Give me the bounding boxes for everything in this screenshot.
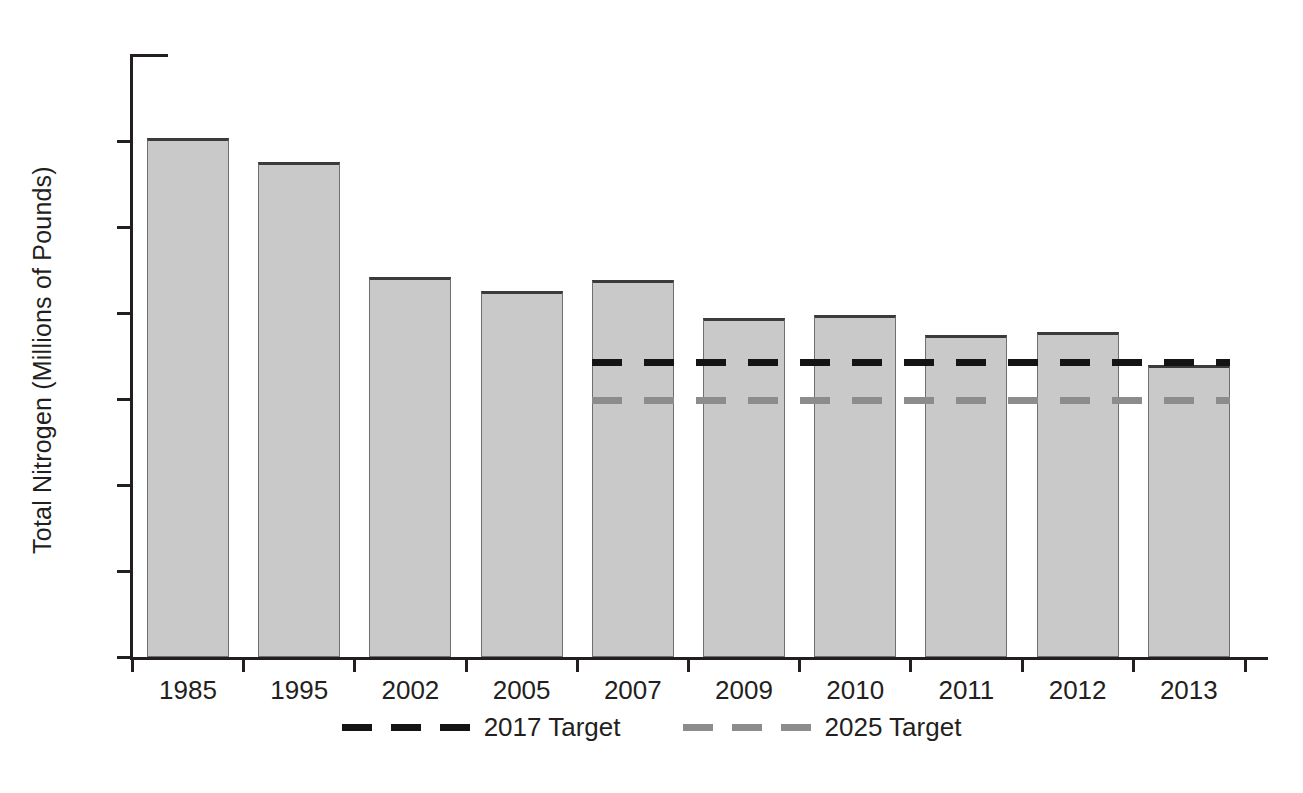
x-axis-tick — [1244, 657, 1247, 672]
bar-2005 — [481, 291, 563, 657]
x-axis-tick — [1132, 657, 1135, 672]
y-axis-tick — [117, 312, 130, 315]
plot-area: 05101520253035 1985199520022005200720092… — [130, 55, 1268, 657]
bar-2009 — [703, 318, 785, 657]
y-axis-tick — [117, 398, 130, 401]
reference-line-2017-target — [592, 359, 1230, 366]
bar-2002 — [369, 277, 451, 657]
legend-item-2025-target: 2025 Target — [683, 712, 962, 743]
x-axis-label-2013: 2013 — [1133, 675, 1245, 706]
x-axis-tick — [131, 657, 134, 672]
x-axis-label-2005: 2005 — [466, 675, 578, 706]
x-axis-tick — [353, 657, 356, 672]
chart-legend: 2017 Target 2025 Target — [0, 712, 1303, 743]
bar-1995 — [258, 162, 340, 657]
y-axis-title: Total Nitrogen (Millions of Pounds) — [22, 40, 62, 680]
y-axis-tick — [117, 226, 130, 229]
x-axis-label-2012: 2012 — [1022, 675, 1134, 706]
bar-2011 — [925, 335, 1007, 657]
x-axis-tick — [909, 657, 912, 672]
x-axis-tick — [576, 657, 579, 672]
x-axis-label-2009: 2009 — [688, 675, 800, 706]
bar-1985 — [147, 138, 229, 657]
bar-2012 — [1037, 332, 1119, 657]
y-axis-tick — [117, 140, 130, 143]
reference-line-2025-target — [592, 397, 1230, 404]
x-axis-label-1995: 1995 — [243, 675, 355, 706]
y-axis-tick — [117, 656, 130, 659]
y-axis-line — [130, 55, 133, 657]
x-axis-tick — [687, 657, 690, 672]
bar-2013 — [1148, 365, 1230, 657]
x-axis-tick — [242, 657, 245, 672]
nitrogen-bar-chart: Total Nitrogen (Millions of Pounds) 0510… — [0, 0, 1303, 793]
x-axis-tick — [465, 657, 468, 672]
y-axis-tick — [130, 54, 168, 57]
y-axis-tick — [117, 570, 130, 573]
x-axis-label-2011: 2011 — [910, 675, 1022, 706]
bar-2007 — [592, 280, 674, 657]
y-axis-tick — [117, 484, 130, 487]
x-axis-line — [130, 657, 1268, 660]
x-axis-label-2010: 2010 — [799, 675, 911, 706]
legend-label-2025-target: 2025 Target — [825, 712, 962, 743]
x-axis-tick — [798, 657, 801, 672]
dashed-line-icon — [342, 724, 470, 731]
legend-item-2017-target: 2017 Target — [342, 712, 621, 743]
legend-label-2017-target: 2017 Target — [484, 712, 621, 743]
x-axis-tick — [1021, 657, 1024, 672]
x-axis-label-1985: 1985 — [132, 675, 244, 706]
x-axis-label-2007: 2007 — [577, 675, 689, 706]
dashed-line-icon — [683, 724, 811, 731]
x-axis-label-2002: 2002 — [354, 675, 466, 706]
